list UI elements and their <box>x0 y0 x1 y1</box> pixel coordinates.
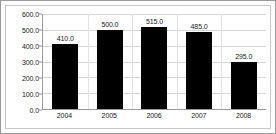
y-tick-label: 200.0 <box>22 75 39 82</box>
x-tick-label: 2004 <box>42 112 87 126</box>
bar-slot: 410.0 <box>43 14 88 109</box>
bar-value-label: 515.0 <box>146 18 163 25</box>
bar-slot: 295.0 <box>221 14 266 109</box>
bar-slot: 500.0 <box>88 14 133 109</box>
chart-canvas: 600.0 500.0 400.0 300.0 200.0 100.0 0.0 <box>5 5 271 129</box>
bar[interactable]: 485.0 <box>186 32 212 109</box>
y-tick-label: 0.0 <box>30 107 39 114</box>
x-tick-label: 2006 <box>132 112 177 126</box>
bar-slot: 485.0 <box>177 14 222 109</box>
y-tick-label: 300.0 <box>22 59 39 66</box>
bar[interactable]: 410.0 <box>52 44 78 109</box>
y-tick-label: 600.0 <box>22 11 39 18</box>
bar-chart: 600.0 500.0 400.0 300.0 200.0 100.0 0.0 <box>0 0 276 134</box>
bar[interactable]: 515.0 <box>141 27 167 109</box>
y-tick-label: 400.0 <box>22 42 39 49</box>
x-tick-label: 2005 <box>87 112 132 126</box>
bar-value-label: 485.0 <box>191 23 208 30</box>
bars-layer: 410.0 500.0 515.0 485.0 <box>43 14 266 109</box>
x-tick-label: 2008 <box>221 112 266 126</box>
y-axis: 600.0 500.0 400.0 300.0 200.0 100.0 0.0 <box>6 14 42 110</box>
plot-area: 410.0 500.0 515.0 485.0 <box>42 14 266 110</box>
bar[interactable]: 295.0 <box>231 62 257 109</box>
x-axis: 2004 2005 2006 2007 2008 <box>42 112 266 126</box>
bar-slot: 515.0 <box>132 14 177 109</box>
x-tick-label: 2007 <box>176 112 221 126</box>
bar-value-label: 500.0 <box>101 21 118 28</box>
y-tick-label: 500.0 <box>22 27 39 34</box>
y-tick-label: 100.0 <box>22 90 39 97</box>
bar[interactable]: 500.0 <box>97 30 123 109</box>
bar-value-label: 410.0 <box>57 35 74 42</box>
bar-value-label: 295.0 <box>235 53 252 60</box>
